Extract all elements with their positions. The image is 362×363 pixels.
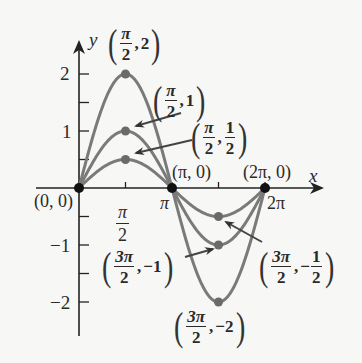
value-numerator: 1 <box>311 248 322 267</box>
point-marker <box>121 70 130 79</box>
point-label-pi-half-2: ( π2 ,2 ) <box>106 24 163 64</box>
x-tick-pi-half-numerator: π <box>116 203 129 224</box>
numerator: π <box>165 82 176 101</box>
value-numerator: 1 <box>225 119 236 138</box>
denominator: 2 <box>122 44 131 63</box>
point-marker <box>214 241 223 250</box>
y-value: −2 <box>215 317 233 337</box>
minus-sign: − <box>300 257 310 277</box>
x-tick-label-2pi: 2π <box>267 194 285 212</box>
y-value: 2 <box>141 34 150 54</box>
value-denominator: 2 <box>226 138 235 157</box>
x-axis-label: x <box>309 166 317 185</box>
point-label-3pi-half-neg2: ( 3π2 ,−2 ) <box>172 307 247 347</box>
numerator: π <box>203 119 214 138</box>
numerator: 3π <box>114 248 134 267</box>
point-marker <box>121 127 130 136</box>
point-label-3pi-half-neg1: ( 3π2 ,−1 ) <box>100 247 175 287</box>
x-tick-label-pi: π <box>160 194 169 212</box>
denominator: 2 <box>120 267 129 286</box>
y-value: 1 <box>186 91 195 111</box>
numerator: 3π <box>271 248 291 267</box>
y-tick-label-1: 1 <box>62 122 72 141</box>
y-tick-label-neg1: −1 <box>50 236 70 255</box>
numerator: 3π <box>186 308 206 327</box>
denominator: 2 <box>205 138 214 157</box>
x-tick-pi-half-denominator: 2 <box>118 224 127 244</box>
point-label-origin: (0, 0) <box>34 192 73 210</box>
point-marker <box>121 155 130 164</box>
y-value: −1 <box>143 257 161 277</box>
y-axis-label: y <box>89 30 97 49</box>
point-marker <box>214 298 223 307</box>
point-label-pi-half-half: ( π2 , 12 ) <box>189 118 250 158</box>
y-tick-label-neg2: −2 <box>50 293 70 312</box>
point-label-pi-zero: (π, 0) <box>172 163 211 181</box>
numerator: π <box>120 25 131 44</box>
y-tick-label-2: 2 <box>60 64 70 83</box>
denominator: 2 <box>192 327 201 346</box>
point-marker <box>214 212 223 221</box>
value-denominator: 2 <box>312 267 321 286</box>
point-label-2pi-zero: (2π, 0) <box>243 163 291 181</box>
point-marker <box>260 183 270 193</box>
denominator: 2 <box>167 101 176 120</box>
point-marker <box>167 183 177 193</box>
x-tick-label-pi-half: π 2 <box>116 203 129 244</box>
denominator: 2 <box>277 267 286 286</box>
point-label-3pi-half-neg-half: ( 3π2 ,− 12 ) <box>257 247 336 287</box>
point-marker <box>74 183 84 193</box>
